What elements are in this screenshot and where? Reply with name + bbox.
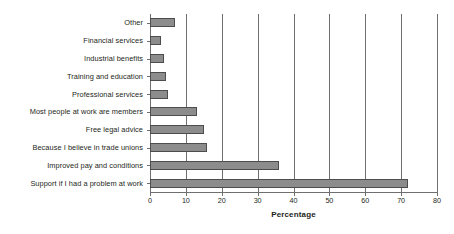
- category-label-row: Training and education: [0, 67, 147, 85]
- bar: [150, 54, 164, 63]
- category-label: Support if I had a problem at work: [30, 179, 143, 188]
- bar-row: [150, 14, 437, 32]
- bar-row: [150, 156, 437, 174]
- x-tick-label: 40: [290, 196, 298, 205]
- bar: [150, 143, 207, 152]
- category-label-row: Because I believe in trade unions: [0, 139, 147, 157]
- bar: [150, 72, 166, 81]
- bar: [150, 107, 197, 116]
- category-label-row: Financial services: [0, 32, 147, 50]
- x-tick-label: 50: [325, 196, 333, 205]
- category-label: Most people at work are members: [30, 107, 143, 116]
- category-label: Because I believe in trade unions: [32, 143, 143, 152]
- x-tick-label: 10: [182, 196, 190, 205]
- bar-row: [150, 103, 437, 121]
- bar-row: [150, 121, 437, 139]
- category-label-row: Industrial benefits: [0, 50, 147, 68]
- bar-row: [150, 32, 437, 50]
- x-tick-label: 30: [254, 196, 262, 205]
- x-tick-label: 60: [361, 196, 369, 205]
- gridline: [437, 14, 438, 192]
- category-label: Training and education: [67, 72, 143, 81]
- category-label-row: Free legal advice: [0, 121, 147, 139]
- bar: [150, 18, 175, 27]
- bar-row: [150, 85, 437, 103]
- bar-series: [150, 14, 437, 192]
- category-label: Free legal advice: [86, 125, 143, 134]
- bar: [150, 90, 168, 99]
- category-label: Financial services: [83, 36, 143, 45]
- x-axis-title: Percentage: [150, 210, 437, 219]
- x-tick-label: 70: [397, 196, 405, 205]
- plot-area: [150, 14, 437, 192]
- bar-row: [150, 67, 437, 85]
- category-label-row: Professional services: [0, 85, 147, 103]
- category-label-row: Support if I had a problem at work: [0, 174, 147, 192]
- category-label: Professional services: [72, 90, 143, 99]
- x-tick-label: 20: [218, 196, 226, 205]
- bar: [150, 125, 204, 134]
- category-label: Other: [124, 18, 143, 27]
- bar: [150, 161, 279, 170]
- category-label: Industrial benefits: [84, 54, 143, 63]
- category-label-row: Improved pay and conditions: [0, 156, 147, 174]
- category-axis: OtherFinancial servicesIndustrial benefi…: [0, 14, 147, 192]
- category-label-row: Most people at work are members: [0, 103, 147, 121]
- bar-row: [150, 139, 437, 157]
- bar-chart: OtherFinancial servicesIndustrial benefi…: [0, 0, 454, 234]
- x-tick-label: 80: [433, 196, 441, 205]
- x-tick-label: 0: [148, 196, 152, 205]
- bar: [150, 179, 408, 188]
- category-label-row: Other: [0, 14, 147, 32]
- bar-row: [150, 50, 437, 68]
- bar: [150, 36, 161, 45]
- category-label: Improved pay and conditions: [47, 161, 143, 170]
- x-axis-tick-labels: 01020304050607080: [150, 196, 437, 208]
- bar-row: [150, 174, 437, 192]
